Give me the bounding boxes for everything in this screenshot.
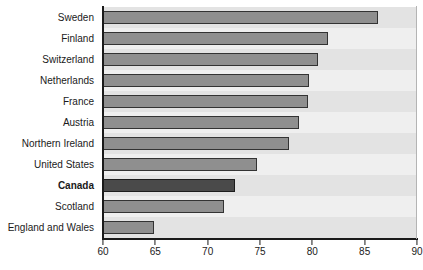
bar[interactable] (103, 221, 154, 234)
category-label: Finland (0, 28, 99, 49)
tick-mark (417, 240, 418, 245)
bar-row (103, 196, 417, 217)
bar-row (103, 175, 417, 196)
bar[interactable] (103, 200, 224, 213)
bar-row (103, 217, 417, 238)
category-label: Northern Ireland (0, 133, 99, 154)
x-axis-tick: 80 (307, 240, 318, 257)
bar[interactable] (103, 158, 257, 171)
category-label: England and Wales (0, 217, 99, 238)
bar-row (103, 70, 417, 91)
category-axis-labels: SwedenFinlandSwitzerlandNetherlandsFranc… (0, 7, 99, 238)
x-axis-tick-label: 85 (359, 247, 370, 257)
bar-row (103, 49, 417, 70)
plot-right-edge (416, 6, 417, 239)
plot-area (103, 7, 417, 238)
bar[interactable] (103, 32, 328, 45)
category-label: Switzerland (0, 49, 99, 70)
x-axis-tick-label: 80 (307, 247, 318, 257)
x-axis-tick: 75 (254, 240, 265, 257)
bar-row (103, 28, 417, 49)
x-axis-tick-label: 90 (411, 247, 422, 257)
category-label: Netherlands (0, 70, 99, 91)
tick-mark (364, 240, 365, 245)
category-label: France (0, 91, 99, 112)
category-label: Canada (0, 175, 99, 196)
x-axis-tick: 70 (202, 240, 213, 257)
category-label: Scotland (0, 196, 99, 217)
y-axis-line (102, 6, 104, 239)
bar-row (103, 91, 417, 112)
value-axis-ticks: 60657075808590 (0, 240, 422, 266)
tick-mark (103, 240, 104, 245)
bar[interactable] (103, 179, 235, 192)
bar[interactable] (103, 11, 378, 24)
x-axis-tick: 60 (97, 240, 108, 257)
tick-mark (155, 240, 156, 245)
bar[interactable] (103, 95, 308, 108)
bar[interactable] (103, 74, 309, 87)
bar-row (103, 7, 417, 28)
bars-container (103, 7, 417, 238)
tick-mark (207, 240, 208, 245)
x-axis-tick: 85 (359, 240, 370, 257)
x-axis-tick-label: 65 (150, 247, 161, 257)
category-label: Austria (0, 112, 99, 133)
bar[interactable] (103, 137, 289, 150)
bar-row (103, 112, 417, 133)
category-label: Sweden (0, 7, 99, 28)
x-axis-tick: 90 (411, 240, 422, 257)
x-axis-tick-label: 60 (97, 247, 108, 257)
category-label: United States (0, 154, 99, 175)
bar-row (103, 154, 417, 175)
tick-mark (260, 240, 261, 245)
bar[interactable] (103, 53, 318, 66)
bar[interactable] (103, 116, 299, 129)
x-axis-tick-label: 75 (254, 247, 265, 257)
x-axis-tick-label: 70 (202, 247, 213, 257)
tick-mark (312, 240, 313, 245)
bar-row (103, 133, 417, 154)
x-axis-tick: 65 (150, 240, 161, 257)
